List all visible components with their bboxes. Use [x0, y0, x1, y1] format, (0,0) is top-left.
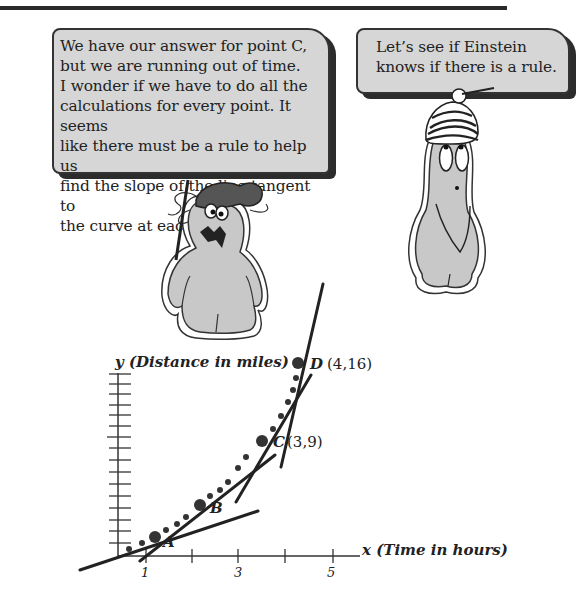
x-axis-label: x (Time in hours): [362, 541, 508, 559]
einstein-character-icon: [409, 88, 494, 293]
y-axis-label: y (Distance in miles): [115, 353, 289, 371]
point-D-coords: (4,16): [327, 355, 372, 373]
point-C-label: C: [273, 433, 285, 451]
illustration-canvas: [0, 0, 583, 597]
x-tick-1: 1: [141, 565, 149, 580]
point-C-coords: (3,9): [287, 433, 323, 451]
worried-character-icon: [162, 180, 268, 339]
point-D: [292, 357, 304, 369]
point-B-label: B: [210, 499, 223, 517]
x-tick-5: 5: [327, 565, 335, 580]
x-tick-3: 3: [234, 565, 242, 580]
point-A: [149, 531, 161, 543]
point-A-label: A: [163, 533, 175, 551]
y-axis-ticks: [107, 374, 131, 543]
point-D-label: D: [310, 355, 323, 373]
point-C: [256, 435, 268, 447]
